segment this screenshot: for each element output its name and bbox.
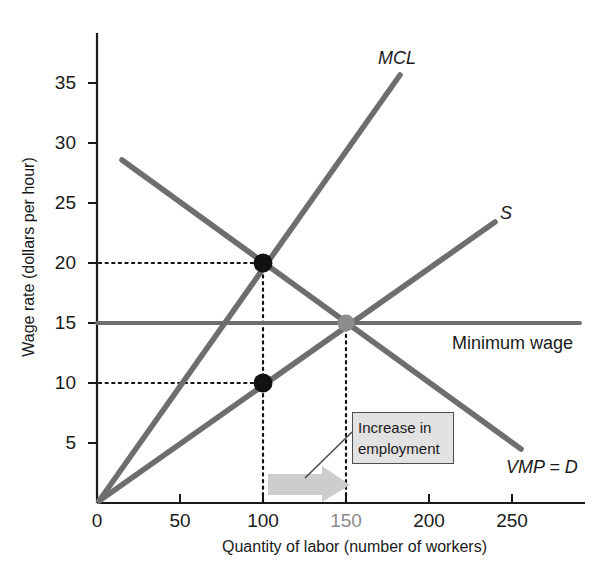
increase-in-employment-callout: Increase in employment bbox=[352, 412, 454, 464]
demand-curve bbox=[122, 160, 521, 449]
y-axis-title: Wage rate (dollars per hour) bbox=[20, 132, 38, 382]
monopsony-minimum-wage-figure: 35 30 25 20 15 10 5 0 50 100 150 200 250… bbox=[0, 0, 600, 580]
y-tick-label-5: 5 bbox=[34, 432, 76, 454]
y-tick-label-30: 30 bbox=[34, 132, 76, 154]
minimum-wage-label: Minimum wage bbox=[452, 333, 573, 354]
x-tick-label-0: 0 bbox=[77, 510, 117, 532]
chart-canvas bbox=[0, 0, 600, 580]
demand-curve-label: VMP = D bbox=[506, 457, 578, 478]
y-tick-label-15: 15 bbox=[34, 312, 76, 334]
employment-increase-arrow bbox=[268, 466, 350, 502]
curves bbox=[97, 75, 580, 501]
x-tick-label-100: 100 bbox=[238, 510, 288, 532]
mcl-curve-label: MCL bbox=[378, 48, 416, 69]
x-axis-title: Quantity of labor (number of workers) bbox=[222, 538, 487, 556]
y-tick-label-20: 20 bbox=[34, 252, 76, 274]
vmp-at-monopsony-point-marker bbox=[254, 254, 273, 273]
axes bbox=[97, 33, 585, 503]
y-tick-label-10: 10 bbox=[34, 372, 76, 394]
y-tick-label-35: 35 bbox=[34, 72, 76, 94]
minimum-wage-equilibrium-marker bbox=[338, 315, 355, 332]
callout-text-line2: employment bbox=[358, 438, 452, 459]
y-axis-ticks bbox=[88, 83, 97, 443]
y-tick-label-25: 25 bbox=[34, 192, 76, 214]
x-tick-label-200: 200 bbox=[404, 510, 454, 532]
x-tick-label-50: 50 bbox=[160, 510, 200, 532]
callout-text-line1: Increase in bbox=[358, 417, 452, 438]
monopsony-wage-point-marker bbox=[254, 374, 273, 393]
x-tick-label-150: 150 bbox=[321, 510, 371, 532]
x-tick-label-250: 250 bbox=[487, 510, 537, 532]
callout-text-block: Increase in employment bbox=[358, 417, 452, 459]
supply-curve-label: S bbox=[500, 203, 512, 224]
